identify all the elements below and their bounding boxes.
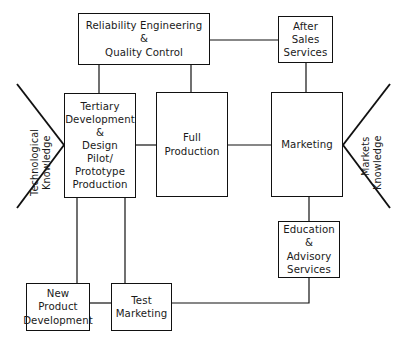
node-label-test-marketing: Test Marketing: [116, 294, 168, 320]
funnel-label-markets-knowledge-line2: Knowledge: [373, 135, 383, 190]
node-label-education-advisory-services: Education & Advisory Services: [283, 223, 335, 275]
node-tertiary-development-design[interactable]: Tertiary Development & Design Pilot/ Pro…: [64, 93, 136, 198]
node-test-marketing[interactable]: Test Marketing: [111, 283, 172, 331]
node-marketing[interactable]: Marketing: [271, 92, 343, 197]
node-reliability-engineering-quality-control[interactable]: Reliability Engineering & Quality Contro…: [78, 13, 210, 65]
funnel-label-technological-knowledge-line1: Technological: [30, 129, 40, 196]
node-new-product-development[interactable]: New Product Development: [26, 283, 90, 331]
node-label-new-product-development: New Product Development: [23, 287, 93, 326]
node-label-marketing: Marketing: [281, 138, 333, 151]
node-education-advisory-services[interactable]: Education & Advisory Services: [278, 221, 340, 278]
funnel-label-markets-knowledge-line1: Markets: [361, 137, 371, 176]
funnel-label-technological-knowledge-line2: Knowledge: [42, 135, 52, 190]
connector-test-marketing-to-education: [172, 278, 309, 303]
node-full-production[interactable]: Full Production: [156, 92, 228, 197]
node-after-sales-services[interactable]: After Sales Services: [278, 16, 333, 63]
node-label-tertiary-development-design: Tertiary Development & Design Pilot/ Pro…: [65, 100, 135, 191]
node-label-reliability-engineering-quality-control: Reliability Engineering & Quality Contro…: [86, 19, 202, 58]
node-label-after-sales-services: After Sales Services: [284, 20, 328, 59]
flow-diagram: Reliability Engineering & Quality Contro…: [0, 0, 405, 355]
node-label-full-production: Full Production: [164, 131, 219, 157]
